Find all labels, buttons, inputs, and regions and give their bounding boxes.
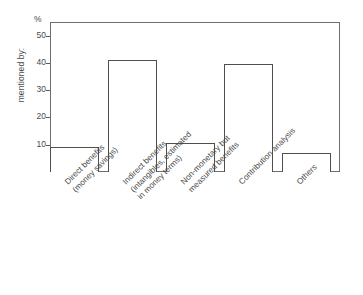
y-axis-tick-label: 10 [26,140,46,149]
y-axis-title: mentioned by: [16,30,26,120]
y-axis-tick-label: 40 [26,58,46,67]
y-axis-tick-label: 50 [26,31,46,40]
y-axis-unit-label: % [34,14,42,24]
y-axis-tick-label: 20 [26,112,46,121]
y-axis-tick-label: 30 [26,85,46,94]
bar-chart: mentioned by: % 5040302010 Direct benefi… [0,0,363,295]
